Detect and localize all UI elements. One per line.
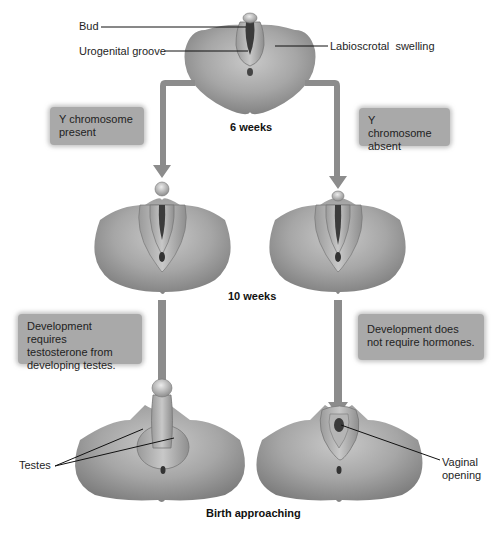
label-vaginal-opening: Vaginal opening bbox=[442, 456, 481, 482]
stage-10-weeks-male-figure bbox=[94, 182, 230, 294]
stage-birth-male-figure bbox=[55, 379, 245, 502]
note-y-chromosome-present: Y chromosome present bbox=[50, 107, 144, 145]
stage-label-birth-approaching: Birth approaching bbox=[206, 507, 301, 519]
stage-label-6-weeks: 6 weeks bbox=[230, 121, 272, 133]
label-testes: Testes bbox=[19, 459, 51, 472]
stage-birth-female-figure bbox=[256, 405, 440, 502]
label-line: Vaginal bbox=[442, 456, 481, 469]
note-text-line: testosterone from bbox=[27, 346, 133, 359]
label-labioscrotal-swelling: Labioscrotal swelling bbox=[330, 40, 435, 53]
note-text-line: developing testes. bbox=[27, 359, 133, 372]
label-bud: Bud bbox=[79, 20, 99, 33]
stage-6-weeks-figure bbox=[185, 13, 316, 114]
stage-label-10-weeks: 10 weeks bbox=[228, 290, 276, 302]
note-text-line: Y chromosome bbox=[59, 113, 135, 126]
note-text-line: Development requires bbox=[27, 320, 133, 346]
stage-10-weeks-female-figure bbox=[269, 191, 405, 294]
diagram-illustration bbox=[0, 0, 500, 534]
note-female-development: Development does not require hormones. bbox=[358, 314, 484, 360]
note-text-line: not require hormones. bbox=[367, 336, 475, 349]
label-line: opening bbox=[442, 469, 481, 482]
arrow-y-present bbox=[153, 80, 195, 178]
note-male-development: Development requires testosterone from d… bbox=[18, 314, 142, 364]
arrow-female-development bbox=[328, 300, 348, 416]
note-text-line: Development does bbox=[367, 323, 475, 336]
note-y-chromosome-absent: Y chromosome absent bbox=[359, 108, 450, 146]
note-text-line: Y chromosome bbox=[368, 114, 441, 140]
arrow-y-absent bbox=[305, 80, 347, 189]
label-urogenital-groove: Urogenital groove bbox=[79, 45, 166, 58]
note-text-line: absent bbox=[368, 140, 441, 153]
note-text-line: present bbox=[59, 126, 135, 139]
